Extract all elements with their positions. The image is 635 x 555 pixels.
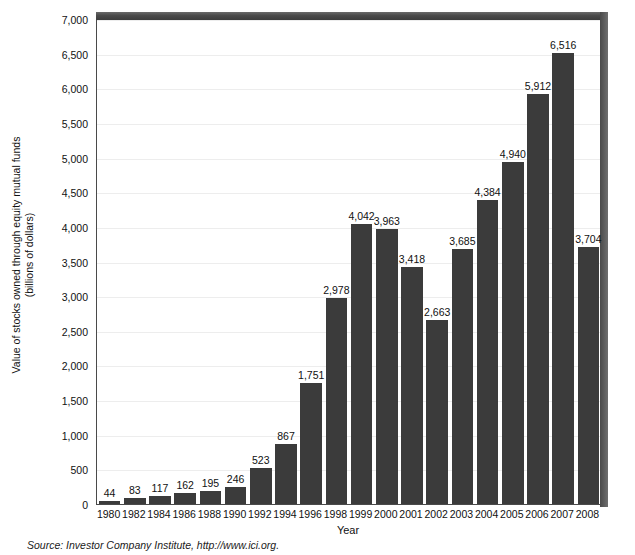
x-axis-tick-1986: 1986 bbox=[173, 508, 196, 520]
bar-group-2008[interactable]: 3,704 bbox=[578, 20, 600, 504]
bar-1986[interactable] bbox=[174, 493, 196, 504]
y-axis-tick-2500: 2,500 bbox=[62, 327, 88, 337]
bar-value-label-2001: 3,418 bbox=[399, 254, 425, 265]
x-axis-title: Year bbox=[96, 524, 600, 536]
bar-1980[interactable] bbox=[99, 501, 121, 504]
x-axis-tick-1982: 1982 bbox=[122, 508, 145, 520]
y-axis-tick-6000: 6,000 bbox=[62, 84, 88, 94]
bar-value-label-1992: 523 bbox=[252, 455, 270, 466]
y-axis-tick-3500: 3,500 bbox=[62, 258, 88, 268]
x-axis-tick-2001: 2001 bbox=[399, 508, 422, 520]
y-axis-tick-labels: 05001,0001,5002,0002,5003,0003,5004,0004… bbox=[42, 0, 94, 510]
bar-value-label-1998: 2,978 bbox=[323, 285, 349, 296]
bar-value-label-1990: 246 bbox=[227, 474, 245, 485]
bar-group-2003[interactable]: 3,685 bbox=[452, 20, 474, 504]
bar-2007[interactable] bbox=[552, 53, 574, 504]
bar-value-label-2003: 3,685 bbox=[449, 236, 475, 247]
x-axis-tick-2006: 2006 bbox=[525, 508, 548, 520]
bar-1982[interactable] bbox=[124, 498, 146, 504]
bar-group-1982[interactable]: 83 bbox=[124, 20, 146, 504]
bar-group-2005[interactable]: 4,940 bbox=[502, 20, 524, 504]
bar-group-2002[interactable]: 2,663 bbox=[426, 20, 448, 504]
plot-frame-right-edge bbox=[600, 12, 608, 507]
bar-chart-figure: Value of stocks owned through equity mut… bbox=[0, 0, 635, 555]
bar-1990[interactable] bbox=[225, 487, 247, 504]
x-axis-tick-2004: 2004 bbox=[475, 508, 498, 520]
bar-value-label-2004: 4,384 bbox=[474, 187, 500, 198]
x-axis-tick-1980: 1980 bbox=[97, 508, 120, 520]
bar-2008[interactable] bbox=[578, 247, 600, 504]
x-axis-tick-1999: 1999 bbox=[349, 508, 372, 520]
bar-value-label-1994: 867 bbox=[277, 431, 295, 442]
bar-value-label-2007: 6,516 bbox=[550, 40, 576, 51]
x-axis-tick-1992: 1992 bbox=[248, 508, 271, 520]
bar-group-1992[interactable]: 523 bbox=[250, 20, 272, 504]
y-axis-tick-7000: 7,000 bbox=[62, 15, 88, 25]
bar-value-label-1988: 195 bbox=[202, 478, 220, 489]
bar-value-label-1980: 44 bbox=[104, 488, 116, 499]
bar-group-1986[interactable]: 162 bbox=[174, 20, 196, 504]
x-axis-tick-labels: 1980198219841986198819901992199419961998… bbox=[96, 508, 600, 524]
bar-2003[interactable] bbox=[452, 249, 474, 504]
x-axis-tick-1984: 1984 bbox=[147, 508, 170, 520]
bar-value-label-1984: 117 bbox=[152, 483, 169, 494]
x-axis-tick-2007: 2007 bbox=[551, 508, 574, 520]
bar-2006[interactable] bbox=[527, 94, 549, 504]
x-axis-tick-2000: 2000 bbox=[374, 508, 397, 520]
bar-1998[interactable] bbox=[326, 298, 348, 504]
y-axis-tick-1000: 1,000 bbox=[62, 431, 88, 441]
bar-group-1999[interactable]: 4,042 bbox=[351, 20, 373, 504]
bar-2000[interactable] bbox=[376, 229, 398, 504]
bar-group-2006[interactable]: 5,912 bbox=[527, 20, 549, 504]
bar-value-label-1996: 1,751 bbox=[298, 370, 324, 381]
y-axis-title-line-2: (billions of dollars) bbox=[23, 137, 36, 374]
x-axis-tick-1998: 1998 bbox=[324, 508, 347, 520]
bar-group-2001[interactable]: 3,418 bbox=[401, 20, 423, 504]
y-axis-tick-6500: 6,500 bbox=[62, 50, 88, 60]
bar-group-1996[interactable]: 1,751 bbox=[300, 20, 322, 504]
y-axis-tick-5000: 5,000 bbox=[62, 154, 88, 164]
bar-value-label-2000: 3,963 bbox=[374, 216, 400, 227]
bar-2004[interactable] bbox=[477, 200, 499, 504]
bar-group-1980[interactable]: 44 bbox=[99, 20, 121, 504]
bar-2001[interactable] bbox=[401, 267, 423, 504]
bar-group-2007[interactable]: 6,516 bbox=[552, 20, 574, 504]
y-axis-tick-4000: 4,000 bbox=[62, 223, 88, 233]
bar-group-1984[interactable]: 117 bbox=[149, 20, 171, 504]
x-axis-tick-2003: 2003 bbox=[450, 508, 473, 520]
x-axis-tick-2008: 2008 bbox=[576, 508, 599, 520]
y-axis-tick-4500: 4,500 bbox=[62, 188, 88, 198]
bar-2005[interactable] bbox=[502, 162, 524, 504]
bar-series: 44831171621952465238671,7512,9784,0423,9… bbox=[97, 20, 600, 504]
x-axis-tick-2002: 2002 bbox=[425, 508, 448, 520]
y-axis-title: Value of stocks owned through equity mut… bbox=[0, 0, 46, 510]
bar-1984[interactable] bbox=[149, 496, 171, 504]
x-axis-tick-1988: 1988 bbox=[198, 508, 221, 520]
bar-1996[interactable] bbox=[300, 383, 322, 504]
source-note: Source: Investor Company Institute, http… bbox=[27, 539, 279, 551]
y-axis-tick-1500: 1,500 bbox=[62, 396, 88, 406]
bar-group-1994[interactable]: 867 bbox=[275, 20, 297, 504]
plot-area: 44831171621952465238671,7512,9784,0423,9… bbox=[96, 20, 600, 505]
bar-group-2004[interactable]: 4,384 bbox=[477, 20, 499, 504]
bar-value-label-1982: 83 bbox=[129, 485, 141, 496]
bar-group-1988[interactable]: 195 bbox=[200, 20, 222, 504]
bar-2002[interactable] bbox=[426, 320, 448, 505]
bar-group-2000[interactable]: 3,963 bbox=[376, 20, 398, 504]
bar-group-1990[interactable]: 246 bbox=[225, 20, 247, 504]
x-axis-tick-2005: 2005 bbox=[500, 508, 523, 520]
x-axis-tick-1994: 1994 bbox=[273, 508, 296, 520]
y-axis-tick-5500: 5,500 bbox=[62, 119, 88, 129]
y-axis-title-line-1: Value of stocks owned through equity mut… bbox=[10, 137, 23, 374]
bar-1992[interactable] bbox=[250, 468, 272, 504]
bar-value-label-2008: 3,704 bbox=[575, 234, 601, 245]
bar-value-label-1986: 162 bbox=[176, 480, 194, 491]
bar-1994[interactable] bbox=[275, 444, 297, 504]
y-axis-tick-500: 500 bbox=[70, 465, 88, 475]
bar-1988[interactable] bbox=[200, 491, 222, 505]
bar-value-label-2005: 4,940 bbox=[500, 149, 526, 160]
x-axis-tick-1990: 1990 bbox=[223, 508, 246, 520]
bar-1999[interactable] bbox=[351, 224, 373, 504]
plot-frame-top-edge bbox=[96, 12, 608, 20]
bar-group-1998[interactable]: 2,978 bbox=[326, 20, 348, 504]
